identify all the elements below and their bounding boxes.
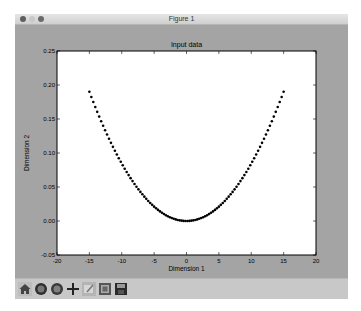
data-point xyxy=(237,183,240,186)
data-point xyxy=(131,180,134,183)
data-point xyxy=(261,142,264,145)
data-point xyxy=(218,205,221,208)
data-point xyxy=(133,183,136,186)
y-tick-label: 0.05 xyxy=(43,184,55,190)
data-point xyxy=(267,129,270,132)
data-point xyxy=(94,106,97,109)
x-tick-label: 20 xyxy=(313,258,320,264)
data-point xyxy=(227,195,230,198)
data-point xyxy=(118,157,121,160)
data-point xyxy=(241,177,244,180)
data-point xyxy=(96,111,99,114)
data-point xyxy=(263,137,266,140)
x-tick-label: 15 xyxy=(280,258,287,264)
data-point xyxy=(127,174,130,177)
forward-button[interactable] xyxy=(50,282,64,296)
data-point xyxy=(274,111,277,114)
y-axis-label: Dimension 2 xyxy=(23,135,30,172)
data-point xyxy=(141,193,144,196)
subplots-config-icon xyxy=(98,282,112,296)
data-point xyxy=(276,106,279,109)
data-point xyxy=(100,120,103,123)
data-point xyxy=(223,200,226,203)
home-icon xyxy=(18,282,32,296)
forward-arrow-icon xyxy=(50,282,64,296)
data-point xyxy=(90,96,93,99)
data-point xyxy=(123,167,126,170)
data-point xyxy=(92,101,95,104)
data-point xyxy=(110,142,113,145)
x-tick-label: -10 xyxy=(117,258,126,264)
y-tick-label: 0.10 xyxy=(43,150,55,156)
data-point xyxy=(216,207,219,210)
data-point xyxy=(221,202,224,205)
x-tick-label: -15 xyxy=(85,258,94,264)
data-point xyxy=(243,174,246,177)
y-tick-label: 0.00 xyxy=(43,218,55,224)
data-point xyxy=(121,164,124,167)
data-point xyxy=(245,171,248,174)
data-point xyxy=(273,115,276,118)
data-point xyxy=(145,198,148,201)
data-point xyxy=(235,185,238,188)
data-point xyxy=(147,200,150,203)
data-point xyxy=(114,149,117,152)
data-point xyxy=(139,191,142,194)
data-point xyxy=(257,149,260,152)
zoom-rect-icon xyxy=(82,282,96,296)
chart-title: Input data xyxy=(171,41,202,49)
figure-window: Figure 1 Input data-20-15-10-505101520-0… xyxy=(15,14,348,298)
data-point xyxy=(282,91,285,94)
data-point xyxy=(220,204,223,207)
subplots-button[interactable] xyxy=(98,282,112,296)
data-point xyxy=(137,188,140,191)
x-axis-label: Dimension 1 xyxy=(168,265,205,272)
data-point xyxy=(125,171,128,174)
y-tick-label: -0.05 xyxy=(41,252,55,258)
save-floppy-icon xyxy=(114,282,128,296)
x-tick-label: 0 xyxy=(185,258,189,264)
data-point xyxy=(253,157,256,160)
data-point xyxy=(247,167,250,170)
home-button[interactable] xyxy=(18,282,32,296)
chart: Input data-20-15-10-505101520-0.050.000.… xyxy=(15,25,348,278)
navigation-toolbar xyxy=(15,278,348,299)
y-tick-label: 0.20 xyxy=(43,82,55,88)
figure-canvas: Input data-20-15-10-505101520-0.050.000.… xyxy=(15,25,348,278)
data-point xyxy=(98,115,101,118)
pan-button[interactable] xyxy=(66,282,80,296)
x-tick-label: -20 xyxy=(53,258,62,264)
data-point xyxy=(153,205,156,208)
save-button[interactable] xyxy=(114,282,128,296)
zoom-rect-button[interactable] xyxy=(82,282,96,296)
data-point xyxy=(265,133,268,136)
data-point xyxy=(225,198,228,201)
data-point xyxy=(104,129,107,132)
data-point xyxy=(102,124,105,127)
title-bar[interactable]: Figure 1 xyxy=(15,14,348,25)
x-tick-label: 5 xyxy=(217,258,221,264)
data-point xyxy=(106,133,109,136)
data-point xyxy=(108,137,111,140)
data-point xyxy=(255,153,258,156)
data-point xyxy=(143,195,146,198)
plot-area[interactable] xyxy=(57,51,316,255)
data-point xyxy=(231,191,234,194)
data-point xyxy=(269,124,272,127)
data-point xyxy=(112,146,115,149)
data-point xyxy=(88,91,91,94)
data-point xyxy=(239,180,242,183)
x-tick-label: 10 xyxy=(248,258,255,264)
data-point xyxy=(251,161,254,164)
data-point xyxy=(259,146,262,149)
data-point xyxy=(249,164,252,167)
x-tick-label: -5 xyxy=(151,258,157,264)
data-point xyxy=(149,202,152,205)
back-button[interactable] xyxy=(34,282,48,296)
back-arrow-icon xyxy=(34,282,48,296)
data-point xyxy=(278,101,281,104)
data-point xyxy=(233,188,236,191)
data-point xyxy=(129,177,132,180)
window-title: Figure 1 xyxy=(15,14,348,24)
y-tick-label: 0.15 xyxy=(43,116,55,122)
